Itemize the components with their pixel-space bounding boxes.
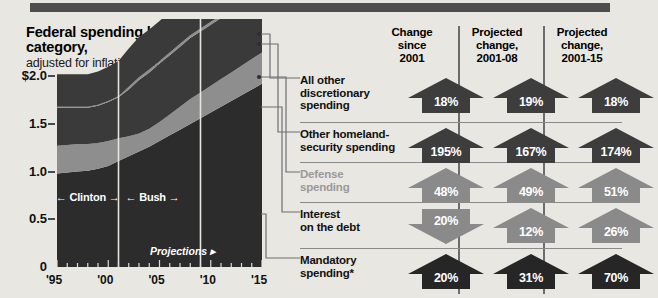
column-header-change-since-2001: Changesince2001: [366, 26, 458, 65]
row-label-interest-on-the-debt: Intereston the debt: [300, 208, 404, 233]
change-cell-interest-on-the-debt-projected-change-2001-08: 12%: [489, 206, 573, 252]
leader-line-other-homeland-security-spending: [258, 44, 300, 132]
row-label-defense-spending: Defensespending: [300, 168, 404, 193]
change-value: 49%: [489, 185, 573, 199]
leader-anchor-dot: [257, 105, 261, 109]
leader-anchor-dot: [257, 42, 261, 46]
row-label-line: Defense: [300, 168, 404, 181]
leader-anchor-dot: [257, 32, 261, 36]
column-header-line: 2001-08: [451, 52, 543, 65]
y-tick-mark: [48, 75, 55, 77]
column-header-line: Projected: [536, 26, 628, 39]
change-value: 51%: [574, 185, 658, 199]
row-label-line: Interest: [300, 208, 404, 221]
change-cell-interest-on-the-debt-change-since-2001: 20%: [404, 206, 488, 252]
chart-panel: Federal spending by category, adjusted f…: [0, 14, 290, 298]
change-value: 48%: [404, 185, 488, 199]
leader-line-defense-spending: [258, 77, 300, 172]
change-value: 26%: [574, 225, 658, 239]
change-value: 174%: [574, 145, 658, 159]
row-label-line: spending*: [300, 267, 404, 280]
row-label-line: discretionary: [300, 87, 404, 100]
change-cell-all-other-discretionary-spending-change-since-2001: 18%: [404, 76, 488, 122]
change-cell-mandatory-spending-projected-change-2001-08: 31%: [489, 252, 573, 298]
y-tick-label: 1.0: [29, 164, 47, 179]
change-value: 12%: [489, 225, 573, 239]
change-value: 167%: [489, 145, 573, 159]
change-cell-mandatory-spending-change-since-2001: 20%: [404, 252, 488, 298]
column-header-projected-change-2001-08: Projectedchange,2001-08: [451, 26, 543, 65]
x-tick-label: '05: [149, 273, 165, 287]
row-label-line: on the debt: [300, 221, 404, 234]
row-label-line: All other: [300, 74, 404, 87]
leader-anchor-dot: [257, 75, 261, 79]
row-label-mandatory-spending: Mandatoryspending*: [300, 254, 404, 279]
change-value: 19%: [489, 95, 573, 109]
row-label-line: spending: [300, 181, 404, 194]
column-header-line: Change: [366, 26, 458, 39]
change-value: 20%: [404, 271, 488, 285]
x-tick-label: '00: [97, 273, 113, 287]
row-label-line: Other homeland-: [300, 128, 404, 141]
column-header-line: Projected: [451, 26, 543, 39]
column-header-line: 2001-15: [536, 52, 628, 65]
leader-line-all-other-discretionary-spending: [258, 34, 300, 78]
column-header-projected-change-2001-15: Projectedchange,2001-15: [536, 26, 628, 65]
annotation-clinton: ← Clinton →: [56, 191, 120, 203]
x-axis: '95'00'05'10'15: [40, 273, 290, 293]
row-divider: [300, 122, 622, 123]
column-header-line: change,: [451, 39, 543, 52]
change-cell-all-other-discretionary-spending-projected-change-2001-08: 19%: [489, 76, 573, 122]
y-tick-mark: [48, 123, 55, 125]
y-tick-label: $2.0: [22, 68, 47, 83]
row-label-other-homeland-security-spending: Other homeland-security spending: [300, 128, 404, 153]
leader-line-mandatory-spending: [258, 214, 300, 258]
change-cell-mandatory-spending-projected-change-2001-15: 70%: [574, 252, 658, 298]
change-value: 31%: [489, 271, 573, 285]
change-value: 70%: [574, 271, 658, 285]
change-value: 18%: [404, 95, 488, 109]
change-table: Changesince2001Projectedchange,2001-08Pr…: [292, 14, 625, 298]
column-header-line: 2001: [366, 52, 458, 65]
top-rule: [30, 3, 610, 12]
change-value: 20%: [404, 214, 488, 228]
leader-line-interest-on-the-debt: [258, 107, 300, 212]
change-value: 18%: [574, 95, 658, 109]
x-tick-label: '10: [200, 273, 216, 287]
row-label-line: spending: [300, 99, 404, 112]
annotation-projections: Projections ▸: [150, 245, 215, 257]
stacked-area-chart: [57, 19, 262, 267]
annotation-bush: ← Bush →: [126, 191, 180, 203]
row-label-line: security spending: [300, 141, 404, 154]
y-axis: $2.01.51.00.50: [0, 19, 55, 269]
leader-anchor-dot: [257, 212, 261, 216]
change-value: 195%: [404, 145, 488, 159]
chart-plot-area: ← Clinton →← Bush →Projections ▸: [57, 19, 262, 267]
column-header-line: since: [366, 39, 458, 52]
y-tick-label: 1.5: [29, 116, 47, 131]
row-label-line: Mandatory: [300, 254, 404, 267]
y-tick-label: 0.5: [29, 211, 47, 226]
x-tick-label: '95: [46, 273, 62, 287]
y-tick-mark: [48, 218, 55, 220]
column-header-line: change,: [536, 39, 628, 52]
change-cell-all-other-discretionary-spending-projected-change-2001-15: 18%: [574, 76, 658, 122]
y-tick-mark: [48, 171, 55, 173]
change-cell-interest-on-the-debt-projected-change-2001-15: 26%: [574, 206, 658, 252]
row-label-all-other-discretionary-spending: All otherdiscretionaryspending: [300, 74, 404, 112]
y-tick-label: 0: [40, 259, 47, 274]
